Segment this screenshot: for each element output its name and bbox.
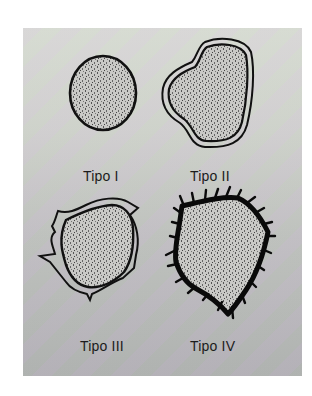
tipo-1-label: Tipo I: [83, 168, 119, 184]
tipo-2-label: Tipo II: [190, 168, 230, 184]
figure-drawings: [0, 0, 312, 396]
tipo-3-label: Tipo III: [80, 338, 124, 354]
tipo-1-drawing: [70, 56, 136, 130]
tipo-3-drawing: [40, 198, 138, 300]
tipo-4-label: Tipo IV: [190, 338, 235, 354]
tipo-4-drawing: [166, 187, 275, 318]
tipo-2-drawing: [162, 39, 253, 147]
